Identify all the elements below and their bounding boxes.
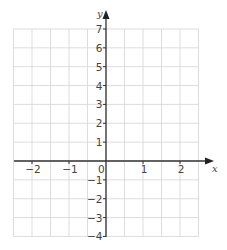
x-axis-label: x — [212, 163, 218, 174]
y-axis-arrow-icon — [103, 10, 110, 19]
coordinate-plane: −2−112−4−3−2−11234567 x y 0 — [0, 0, 227, 250]
y-tick-label: 4 — [96, 80, 103, 92]
y-tick-label: 7 — [96, 23, 103, 35]
tick-labels: −2−112−4−3−2−11234567 — [25, 23, 184, 242]
y-tick-label: −2 — [87, 193, 102, 205]
y-tick-label: −1 — [87, 174, 102, 186]
y-tick-label: 1 — [96, 136, 103, 148]
x-tick-label: 2 — [178, 163, 185, 175]
y-tick-label: 5 — [96, 61, 103, 73]
x-tick-label: 1 — [141, 163, 148, 175]
y-tick-label: 2 — [96, 117, 103, 129]
y-tick-label: −3 — [87, 212, 102, 224]
origin-label: 0 — [98, 163, 105, 175]
x-tick-label: −1 — [62, 163, 77, 175]
y-tick-label: −4 — [87, 230, 103, 242]
y-tick-label: 6 — [96, 42, 103, 54]
y-tick-label: 3 — [96, 98, 103, 110]
y-axis-label: y — [96, 8, 103, 19]
x-tick-label: −2 — [25, 163, 40, 175]
